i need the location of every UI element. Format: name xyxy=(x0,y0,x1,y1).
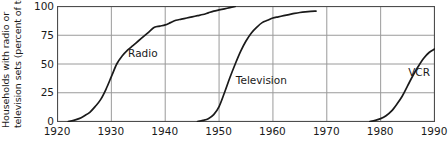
x-tick-label-1950: 1950 xyxy=(205,126,232,137)
plot-area xyxy=(57,6,434,121)
x-tick-label-1970: 1970 xyxy=(313,126,340,137)
series-label-television: Television xyxy=(236,75,287,86)
series-line-vcr xyxy=(370,49,435,121)
x-tick-label-1980: 1980 xyxy=(367,126,394,137)
y-tick-label-50: 50 xyxy=(10,58,54,69)
y-tick-label-25: 25 xyxy=(10,87,54,98)
y-tick-label-75: 75 xyxy=(10,30,54,41)
x-tick-label-1960: 1960 xyxy=(259,126,286,137)
x-tick-label-1940: 1940 xyxy=(151,126,178,137)
x-tick-label-1990: 1990 xyxy=(421,126,448,137)
y-tick-label-100: 100 xyxy=(10,1,54,12)
y-axis-tick-labels: 0255075100 xyxy=(8,0,54,130)
x-tick-label-1930: 1930 xyxy=(97,126,124,137)
series-label-radio: Radio xyxy=(128,48,158,59)
series-label-vcr: VCR xyxy=(408,67,430,78)
chart-svg xyxy=(57,6,435,122)
x-tick-label-1920: 1920 xyxy=(44,126,71,137)
chart-container: Households with radio or television sets… xyxy=(0,0,448,144)
series-line-television xyxy=(198,11,316,121)
